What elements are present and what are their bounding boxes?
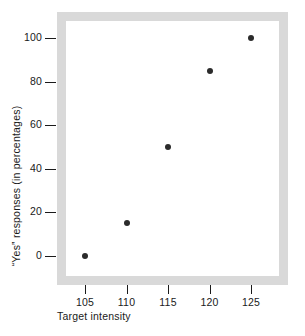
data-point	[124, 220, 130, 226]
y-axis-title: “Yes” responses (in percentages)	[10, 86, 22, 286]
x-axis-tick-label: 110	[107, 297, 147, 308]
x-axis-tick-label: 105	[65, 297, 105, 308]
y-axis-tick-mark	[45, 38, 56, 39]
data-point	[165, 144, 171, 150]
plot-area	[66, 21, 279, 276]
x-axis-tick-label: 115	[148, 297, 188, 308]
data-point	[248, 35, 254, 41]
x-axis-title: Target intensity	[57, 310, 131, 322]
x-axis-tick-mark	[85, 285, 86, 294]
y-axis-tick-mark	[45, 256, 56, 257]
y-axis-tick-mark	[45, 82, 56, 83]
x-axis-tick-mark	[127, 285, 128, 294]
x-axis-tick-label: 120	[190, 297, 230, 308]
data-point	[82, 253, 88, 259]
x-axis-tick-mark	[168, 285, 169, 294]
y-axis-tick-mark	[45, 212, 56, 213]
x-axis-tick-label: 125	[231, 297, 271, 308]
y-axis-title-wrap: “Yes” responses (in percentages)	[0, 0, 34, 285]
y-axis-tick-mark	[45, 169, 56, 170]
x-axis-tick-mark	[210, 285, 211, 294]
y-axis-tick-mark	[45, 125, 56, 126]
data-point	[207, 68, 213, 74]
x-axis-tick-mark	[251, 285, 252, 294]
psychometric-function-chart: 100806040200 105110115120125 “Yes” respo…	[0, 0, 305, 336]
